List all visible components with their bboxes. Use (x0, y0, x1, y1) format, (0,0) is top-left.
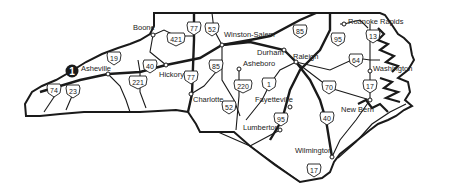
city-label-washington: Washington (373, 64, 412, 73)
shield-us-1: 1 (262, 78, 276, 91)
svg-text:74: 74 (50, 87, 58, 94)
svg-text:64: 64 (352, 57, 360, 64)
city-label-roanoke-rapids: Roanoke Rapids (348, 17, 404, 26)
city-label-lumberton: Lumberton (243, 123, 279, 132)
shield-us-220: 220 (234, 80, 252, 93)
svg-text:17: 17 (366, 83, 374, 90)
location-marker-1[interactable]: 1 (66, 65, 79, 78)
svg-text:52: 52 (208, 26, 216, 33)
shield-us-52-south: 52 (222, 101, 236, 114)
svg-text:23: 23 (69, 88, 77, 95)
svg-text:13: 13 (369, 33, 377, 40)
svg-text:95: 95 (277, 116, 285, 123)
svg-text:52: 52 (225, 104, 233, 111)
city-label-asheville: Asheville (81, 64, 111, 73)
shield-us-85-north: 85 (293, 25, 307, 38)
svg-text:220: 220 (237, 83, 249, 90)
svg-text:77: 77 (190, 25, 198, 32)
svg-text:221: 221 (132, 79, 144, 86)
shield-us-17-south: 17 (307, 164, 321, 177)
svg-text:95: 95 (334, 36, 342, 43)
svg-text:17: 17 (310, 167, 318, 174)
shield-us-95-north: 95 (331, 33, 345, 46)
shield-us-40-east: 40 (320, 112, 334, 125)
interstate-highways (40, 13, 332, 157)
city-label-raleigh: Raleigh (293, 52, 318, 61)
city-label-charlotte: Charlotte (193, 95, 223, 104)
shield-us-77-north: 77 (187, 22, 201, 35)
city-label-durham: Durham (257, 48, 284, 57)
svg-text:19: 19 (110, 55, 118, 62)
shield-us-77-mid: 77 (184, 71, 198, 84)
shield-us-23: 23 (66, 85, 80, 98)
shield-us-74: 74 (47, 84, 61, 97)
svg-text:421: 421 (170, 36, 182, 43)
shield-us-221: 221 (129, 76, 147, 89)
city-label-wilmington: Wilmington (295, 146, 332, 155)
svg-text:70: 70 (325, 84, 333, 91)
city-label-boone: Boone (133, 23, 155, 32)
city-label-asheboro: Asheboro (243, 59, 275, 68)
city-label-new-bern: New Bern (341, 105, 374, 114)
shield-us-64: 64 (349, 54, 363, 67)
shield-us-52-north: 52 (205, 23, 219, 36)
svg-text:85: 85 (212, 63, 220, 70)
shield-us-17-mid: 17 (363, 80, 377, 93)
shield-us-421: 421 (167, 33, 185, 46)
svg-text:40: 40 (323, 115, 331, 122)
city-label-winston-salem: Winston-Salem (224, 30, 275, 39)
city-label-hickory: Hickory (159, 70, 184, 79)
city-label-fayetteville: Fayetteville (255, 95, 293, 104)
shield-us-70: 70 (322, 81, 336, 94)
svg-text:85: 85 (296, 28, 304, 35)
shield-us-85-mid: 85 (209, 60, 223, 73)
svg-text:1: 1 (69, 66, 75, 77)
north-carolina-map: Boone Winston-Salem Roanoke Rapids Durha… (0, 0, 456, 191)
svg-text:40: 40 (146, 63, 154, 70)
svg-text:77: 77 (187, 74, 195, 81)
svg-text:1: 1 (267, 81, 271, 88)
